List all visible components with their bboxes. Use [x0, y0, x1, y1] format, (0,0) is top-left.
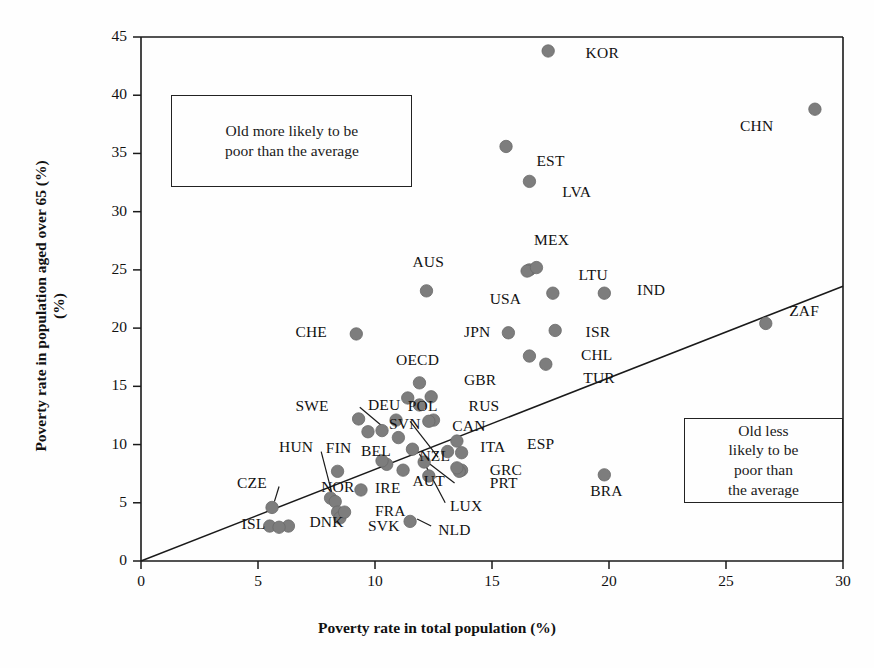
note-upper-text: Old more likely to bepoor than the avera… [225, 121, 359, 161]
data-point-lva [523, 175, 535, 187]
point-label-can: CAN [452, 417, 485, 435]
y-tick-label: 10 [87, 435, 127, 453]
point-label-rus: RUS [469, 397, 500, 415]
point-label-ltu: LTU [579, 266, 608, 284]
data-point-extra-1 [273, 521, 285, 533]
point-label-lux: LUX [450, 497, 482, 515]
x-tick-label: 5 [238, 572, 278, 590]
y-tick-label: 20 [87, 318, 127, 336]
y-tick-label: 0 [87, 551, 127, 569]
point-label-che: CHE [295, 323, 327, 341]
point-label-tur: TUR [583, 369, 615, 387]
point-label-aus: AUS [412, 253, 444, 271]
data-point-oecd [413, 377, 425, 389]
data-point-ire [355, 484, 367, 496]
data-point-tur [540, 358, 552, 370]
data-point-hun [331, 465, 343, 477]
point-label-chl: CHL [581, 346, 613, 364]
plot-canvas [0, 0, 874, 668]
data-point-est [500, 140, 512, 152]
data-point-ind [598, 287, 610, 299]
y-tick-label: 40 [87, 85, 127, 103]
data-point-che [350, 328, 362, 340]
y-tick-label: 15 [87, 376, 127, 394]
point-label-ita: ITA [480, 438, 505, 456]
data-point-lux [406, 443, 418, 455]
data-point-aus [420, 285, 432, 297]
point-label-ire: IRE [375, 479, 401, 497]
point-label-esp: ESP [527, 435, 554, 453]
x-tick-label: 0 [121, 572, 161, 590]
x-tick-label: 30 [823, 572, 863, 590]
data-point-extra-3 [362, 426, 374, 438]
point-label-ind: IND [637, 281, 665, 299]
point-label-nzl: NZL [419, 447, 450, 465]
data-point-zaf [760, 317, 772, 329]
y-tick-label: 45 [87, 27, 127, 45]
note-lower-text: Old lesslikely to bepoor thanthe average [728, 421, 799, 500]
point-label-deu: DEU [368, 396, 400, 414]
data-point-extra-0 [530, 261, 542, 273]
data-point-deu [376, 424, 388, 436]
point-label-oecd: OECD [396, 351, 439, 369]
point-label-pol: POL [408, 397, 438, 415]
point-label-hun: HUN [279, 438, 313, 456]
data-point-chl [523, 350, 535, 362]
x-axis-title: Poverty rate in total population (%) [0, 619, 874, 637]
point-label-isl: ISL [242, 515, 266, 533]
x-tick-label: 20 [589, 572, 629, 590]
point-label-chn: CHN [740, 117, 773, 135]
point-label-zaf: ZAF [789, 302, 819, 320]
data-point-ita [455, 447, 467, 459]
point-label-jpn: JPN [464, 323, 490, 341]
data-point-aut [397, 464, 409, 476]
x-tick-label: 25 [706, 572, 746, 590]
data-point-cze [266, 501, 278, 513]
note-lower: Old lesslikely to bepoor thanthe average [684, 418, 843, 503]
leader-line-nld [417, 519, 431, 526]
data-point-kor [542, 45, 554, 57]
point-label-fin: FIN [326, 439, 352, 457]
point-label-mex: MEX [534, 231, 569, 249]
data-point-extra-4 [423, 415, 435, 427]
point-label-isr: ISR [586, 323, 611, 341]
point-label-aut: AUT [412, 472, 444, 490]
point-label-gbr: GBR [464, 371, 496, 389]
point-label-nor: NOR [321, 478, 354, 496]
point-label-kor: KOR [586, 44, 619, 62]
data-point-esp [451, 462, 463, 474]
point-label-est: EST [536, 152, 564, 170]
scatter-chart-figure: KORCHNESTLVAMEXLTUINDUSAAUSZAFISRJPNCHEC… [0, 0, 874, 668]
y-tick-label: 35 [87, 143, 127, 161]
data-point-jpn [502, 327, 514, 339]
data-point-bra [598, 469, 610, 481]
note-upper: Old more likely to bepoor than the avera… [171, 95, 412, 187]
data-point-ltu [547, 287, 559, 299]
point-label-lva: LVA [562, 183, 591, 201]
data-point-svn [392, 431, 404, 443]
data-point-swe [352, 413, 364, 425]
point-label-cze: CZE [237, 474, 267, 492]
x-tick-label: 10 [355, 572, 395, 590]
point-label-svn: SVN [389, 415, 421, 433]
data-point-chn [809, 103, 821, 115]
point-label-swe: SWE [295, 397, 328, 415]
y-axis-title-text: Poverty rate in population aged over 65 … [32, 160, 49, 451]
point-label-prt: PRT [490, 474, 518, 492]
y-axis-unit: (%) [50, 293, 67, 319]
data-point-isr [549, 324, 561, 336]
point-label-nld: NLD [438, 521, 470, 539]
y-tick-label: 5 [87, 493, 127, 511]
y-tick-label: 25 [87, 260, 127, 278]
point-label-bra: BRA [590, 482, 622, 500]
leader-line-cze [274, 486, 279, 501]
point-label-fra: FRA [375, 502, 406, 520]
x-tick-label: 15 [472, 572, 512, 590]
y-axis-title: Poverty rate in population aged over 65 … [32, 26, 68, 586]
y-tick-label: 30 [87, 202, 127, 220]
data-point-can [451, 435, 463, 447]
point-label-bel: BEL [361, 442, 391, 460]
point-label-dnk: DNK [309, 513, 343, 531]
point-label-usa: USA [490, 290, 522, 308]
